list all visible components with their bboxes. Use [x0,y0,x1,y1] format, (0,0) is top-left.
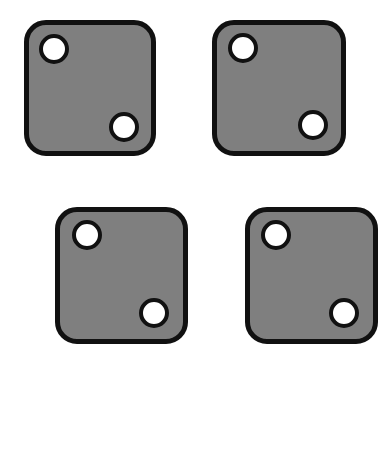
pip-bottom-right [109,112,139,142]
pip-top-left [228,33,258,63]
pip-top-left [39,34,69,64]
pip-bottom-right [139,298,169,328]
pip-bottom-right [298,110,328,140]
die-3 [55,207,188,344]
dice-canvas: Four gray dice each showing the face wit… [0,0,392,472]
pip-top-left [261,220,291,250]
pip-bottom-right [329,298,359,328]
pip-top-left [72,220,102,250]
die-1 [24,20,156,156]
die-4 [245,207,378,344]
die-2 [212,20,346,156]
